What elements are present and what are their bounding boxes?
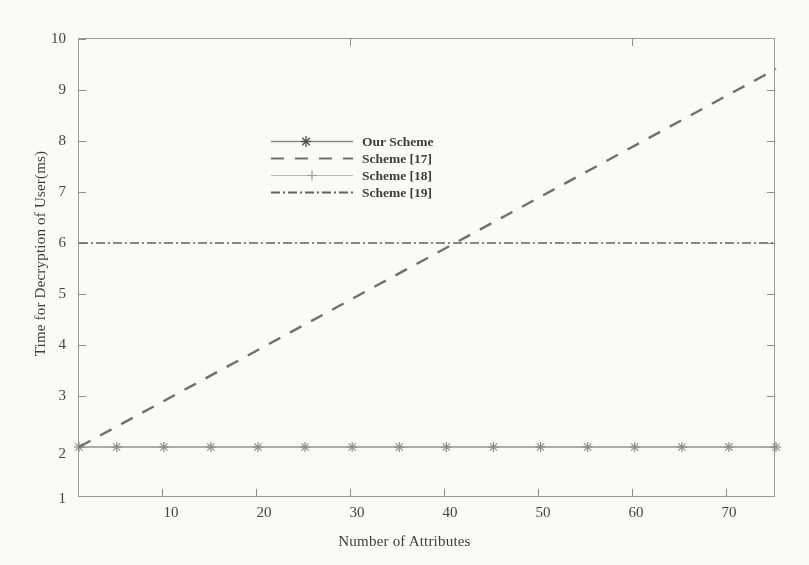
- legend-item-scheme-19: Scheme [19]: [269, 184, 451, 201]
- legend-label-our-scheme: Our Scheme: [362, 134, 433, 149]
- y-tick-label-7: 7: [36, 184, 66, 199]
- y-tick-label-5: 5: [36, 286, 66, 301]
- y-tick-label-2: 2: [36, 446, 66, 461]
- legend-label-scheme-19: Scheme [19]: [362, 185, 432, 200]
- x-tick-label-40: 40: [430, 505, 470, 520]
- legend-label-scheme-17: Scheme [17]: [362, 151, 432, 166]
- legend-sample-solid-star: [269, 133, 355, 150]
- x-axis-title: Number of Attributes: [0, 533, 809, 550]
- x-tick-label-70: 70: [709, 505, 749, 520]
- legend-sample-dashed: [269, 150, 355, 167]
- x-tick-label-50: 50: [523, 505, 563, 520]
- series-layer: [79, 39, 776, 498]
- x-tick-label-30: 30: [337, 505, 377, 520]
- y-axis-title: Time for Decryption of User(ms): [32, 64, 49, 444]
- y-tick-label-9: 9: [36, 82, 66, 97]
- plot-area: Our Scheme Scheme [17] Scheme [18]: [78, 38, 775, 497]
- chart-figure: Time for Decryption of User(ms) 10 9 8 7…: [0, 0, 809, 565]
- legend-label-scheme-18: Scheme [18]: [362, 168, 432, 183]
- series-our-scheme: [74, 442, 781, 452]
- y-tick-label-4: 4: [36, 337, 66, 352]
- legend-sample-dash-dot: [269, 184, 355, 201]
- x-tick-label-20: 20: [244, 505, 284, 520]
- legend-item-our-scheme: Our Scheme: [269, 133, 451, 150]
- x-tick-label-10: 10: [151, 505, 191, 520]
- x-tick-label-60: 60: [616, 505, 656, 520]
- y-tick-label-3: 3: [36, 388, 66, 403]
- y-tick-label-6: 6: [36, 235, 66, 250]
- y-tick-label-1: 1: [36, 491, 66, 506]
- legend: Our Scheme Scheme [17] Scheme [18]: [269, 133, 451, 209]
- legend-sample-solid-plus: [269, 167, 355, 184]
- y-tick-label-10: 10: [36, 31, 66, 46]
- legend-item-scheme-17: Scheme [17]: [269, 150, 451, 167]
- legend-item-scheme-18: Scheme [18]: [269, 167, 451, 184]
- series-scheme-17: [79, 69, 776, 447]
- y-tick-label-8: 8: [36, 133, 66, 148]
